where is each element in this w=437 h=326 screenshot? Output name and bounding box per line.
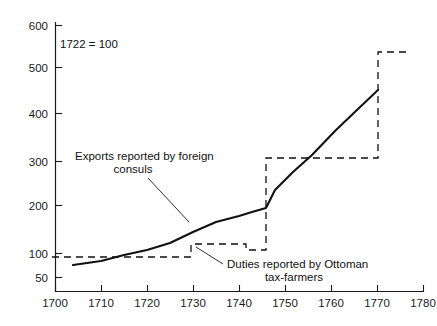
x-tick-label-1770: 1770 — [364, 297, 390, 309]
exports-annotation-line2: consuls — [114, 163, 153, 175]
x-tick-labels: 1700 1710 1720 1730 1740 1750 1760 1770 … — [42, 297, 436, 309]
exports-annotation-line1: Exports reported by foreign — [75, 150, 214, 162]
x-tick-label-1730: 1730 — [180, 297, 206, 309]
duties-annotation-leader — [196, 247, 223, 264]
series-exports-line — [73, 90, 378, 265]
x-tick-label-1760: 1760 — [318, 297, 344, 309]
y-tick-labels: 600 500 400 300 200 100 50 — [29, 20, 48, 284]
x-tick-label-1740: 1740 — [226, 297, 252, 309]
y-axis — [56, 22, 63, 292]
x-tick-label-1700: 1700 — [42, 297, 68, 309]
exports-annotation-leader — [148, 178, 189, 222]
y-tick-label-200: 200 — [29, 200, 48, 212]
duties-annotation-line1: Duties reported by Ottoman — [227, 258, 368, 270]
x-axis — [56, 285, 425, 292]
y-tick-label-100: 100 — [29, 248, 48, 260]
y-tick-label-300: 300 — [29, 156, 48, 168]
duties-annotation-line2: tax-farmers — [265, 271, 323, 283]
x-tick-label-1780: 1780 — [410, 297, 436, 309]
chart-canvas: 600 500 400 300 200 100 50 1700 1710 172… — [0, 0, 437, 326]
y-tick-label-400: 400 — [29, 108, 48, 120]
x-tick-label-1720: 1720 — [134, 297, 160, 309]
exports-annotation: Exports reported by foreign consuls — [75, 150, 214, 222]
index-base-note: 1722 = 100 — [60, 38, 118, 50]
x-tick-label-1710: 1710 — [88, 297, 114, 309]
chart-figure: 600 500 400 300 200 100 50 1700 1710 172… — [0, 0, 437, 326]
y-tick-label-50: 50 — [35, 272, 48, 284]
y-tick-label-500: 500 — [29, 62, 48, 74]
x-tick-label-1750: 1750 — [272, 297, 298, 309]
y-tick-label-600: 600 — [29, 20, 48, 32]
duties-annotation: Duties reported by Ottoman tax-farmers — [196, 247, 368, 283]
